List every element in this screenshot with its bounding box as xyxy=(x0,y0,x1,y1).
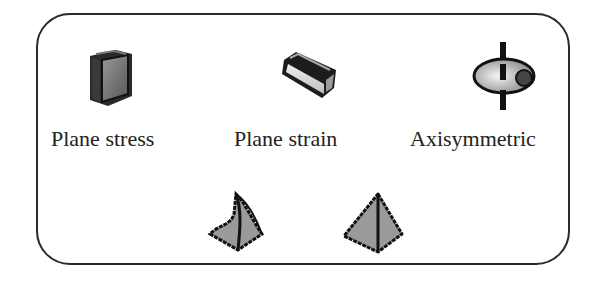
plane-strain-icon xyxy=(280,48,340,102)
plane-stress-icon xyxy=(86,46,138,110)
axisymmetric-icon xyxy=(470,40,538,112)
plane-stress-label: Plane stress xyxy=(51,128,154,150)
curved-tetrahedron-icon[interactable] xyxy=(206,190,270,256)
plane-strain-label: Plane strain xyxy=(234,128,337,150)
axisymmetric-label: Axisymmetric xyxy=(410,128,536,150)
tetrahedron-icon[interactable] xyxy=(340,192,406,256)
